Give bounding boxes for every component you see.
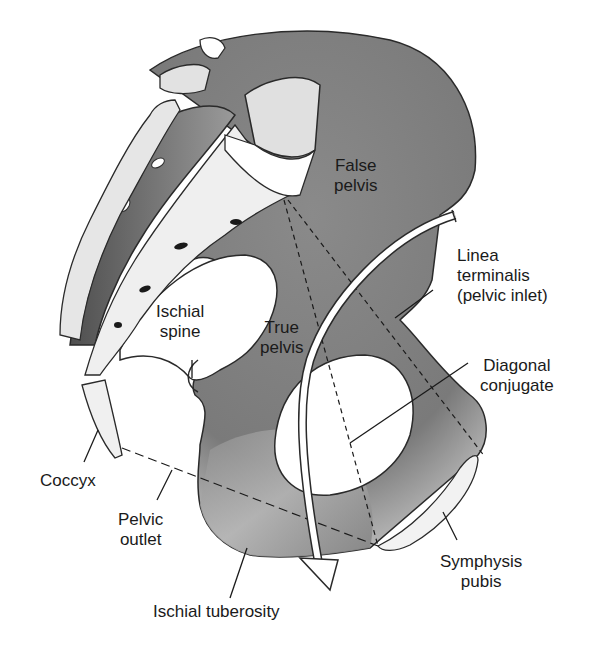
arrowhead bbox=[300, 558, 338, 590]
label-symphysis-pubis: Symphysis pubis bbox=[440, 552, 522, 592]
l5-vertebra bbox=[245, 78, 320, 157]
label-ischial-tuberosity: Ischial tuberosity bbox=[153, 602, 280, 622]
label-ischial-spine: Ischial spine bbox=[156, 302, 204, 342]
label-diagonal-conjugate: Diagonal conjugate bbox=[480, 356, 554, 396]
label-true-pelvis: True pelvis bbox=[260, 318, 303, 358]
label-pelvic-outlet: Pelvic outlet bbox=[118, 510, 163, 550]
label-coccyx: Coccyx bbox=[40, 471, 96, 491]
pelvis-diagram: False pelvis Linea terminalis (pelvic in… bbox=[0, 0, 590, 664]
label-false-pelvis: False pelvis bbox=[334, 156, 377, 196]
label-linea-terminalis: Linea terminalis (pelvic inlet) bbox=[457, 246, 548, 306]
coccyx-bone bbox=[82, 380, 122, 458]
